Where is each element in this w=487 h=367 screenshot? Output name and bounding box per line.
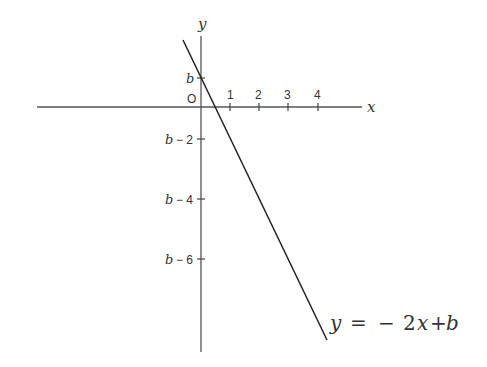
x-tick-label-2: 2 (255, 88, 262, 102)
x-tick-label-3: 3 (284, 88, 291, 102)
y-tick-label-b-4-num: − 4 (176, 193, 193, 207)
svg-text:−: − (378, 311, 395, 335)
x-tick-label-4: 4 (314, 88, 321, 102)
equation-label: y = − 2 x + b (329, 311, 459, 335)
y-tick-label-b-4-var: b (165, 192, 173, 207)
svg-text:x: x (417, 311, 428, 335)
y-axis-label: y (197, 15, 207, 33)
x-tick-label-1: 1 (227, 88, 234, 102)
x-axis-label: x (367, 98, 376, 116)
y-tick-label-b-2-var: b (165, 132, 173, 147)
y-ticks: b b − 2 b − 4 b − 6 (165, 71, 205, 267)
origin-label: O (187, 92, 196, 106)
svg-text:=: = (350, 311, 367, 335)
svg-text:+: + (430, 311, 447, 335)
svg-text:b: b (446, 311, 459, 335)
y-tick-label-b-6-var: b (165, 252, 173, 267)
y-tick-label-b-6-num: − 6 (176, 253, 193, 267)
y-tick-label-b: b (186, 71, 194, 86)
svg-text:2: 2 (403, 311, 416, 335)
chart-figure: x y O 1 2 3 4 b b − 2 b − 4 b − 6 y = − … (0, 0, 487, 367)
function-line (183, 40, 327, 340)
svg-text:y: y (329, 311, 342, 335)
y-tick-label-b-2-num: − 2 (176, 133, 193, 147)
